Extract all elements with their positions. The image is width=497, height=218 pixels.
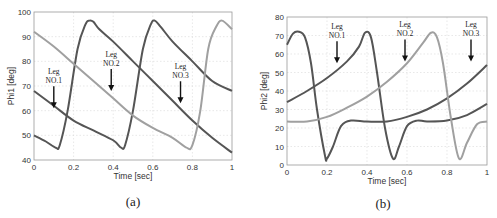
y-tick-label: 50 [22, 131, 31, 140]
y-tick-label: 20 [275, 124, 284, 133]
figure-caption: (b) [375, 196, 390, 211]
y-tick-label: 100 [18, 8, 32, 17]
annotation-label: Leg [331, 22, 343, 31]
y-tick-label: 70 [22, 82, 31, 91]
annotation-label: NO.2 [397, 29, 414, 38]
x-tick-label: 0.8 [187, 163, 199, 172]
arrow-head-icon [468, 55, 474, 61]
y-tick-label: 80 [22, 57, 31, 66]
y-tick-label: 80 [275, 13, 284, 22]
annotation-label: NO.1 [329, 31, 346, 40]
y-tick-label: 0 [280, 161, 285, 170]
y-tick-label: 10 [275, 143, 284, 152]
x-tick-label: 0 [32, 163, 37, 172]
annotation-label: Leg [399, 20, 411, 29]
annotation-label: NO.1 [46, 76, 63, 85]
annotation-label: NO.3 [463, 29, 480, 38]
annotation-label: NO.3 [172, 71, 189, 80]
annotation-label: Leg [105, 50, 117, 59]
x-tick-label: 1 [485, 168, 490, 177]
y-tick-label: 60 [275, 50, 284, 59]
annotation-label: Leg [175, 62, 187, 71]
x-axis-label: Time [sec] [114, 171, 153, 181]
x-tick-label: 0 [285, 168, 290, 177]
y-tick-label: 60 [22, 107, 31, 116]
arrow-head-icon [178, 97, 184, 103]
y-tick-label: 30 [275, 106, 284, 115]
figure-caption: (a) [126, 194, 140, 209]
annotation-label: NO.2 [103, 59, 120, 68]
x-tick-label: 0.8 [441, 168, 453, 177]
figure-canvas: 00.20.40.60.81405060708090100LegNO.1LegN… [0, 0, 497, 218]
annotation-label: Leg [48, 67, 60, 76]
series-line-1 [34, 20, 232, 152]
y-axis-label: Phi2 [deg] [259, 72, 269, 110]
x-tick-label: 0.2 [321, 168, 333, 177]
x-tick-label: 0.2 [68, 163, 80, 172]
y-axis-label: Phi1 [deg] [6, 67, 16, 105]
chart-a: 00.20.40.60.81405060708090100LegNO.1LegN… [6, 8, 235, 209]
y-tick-label: 50 [275, 69, 284, 78]
y-tick-label: 70 [275, 32, 284, 41]
arrow-head-icon [334, 57, 340, 63]
annotation-label: Leg [465, 20, 477, 29]
y-tick-label: 40 [275, 87, 284, 96]
x-axis-label: Time [sec] [368, 176, 407, 186]
chart-b: 00.20.40.60.8101020304050607080LegNO.1Le… [259, 13, 490, 211]
y-tick-label: 40 [22, 156, 31, 165]
y-tick-label: 90 [22, 33, 31, 42]
x-tick-label: 1 [230, 163, 235, 172]
series-line-2 [287, 32, 487, 159]
